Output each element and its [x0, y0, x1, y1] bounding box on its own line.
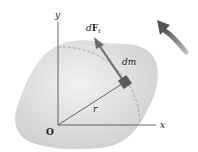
rotation-direction-arrow — [164, 30, 186, 52]
rigid-body-diagram: y x O r dm dFt — [0, 0, 198, 152]
rigid-body-shape — [15, 40, 158, 149]
x-axis-label: x — [160, 120, 165, 130]
radius-label: r — [93, 104, 98, 114]
y-axis-label: y — [54, 10, 61, 20]
mass-element-label: dm — [122, 57, 136, 67]
diagram-canvas: y x O r dm dFt — [0, 0, 198, 152]
origin-label: O — [46, 127, 54, 137]
force-label: dFt — [86, 23, 101, 34]
